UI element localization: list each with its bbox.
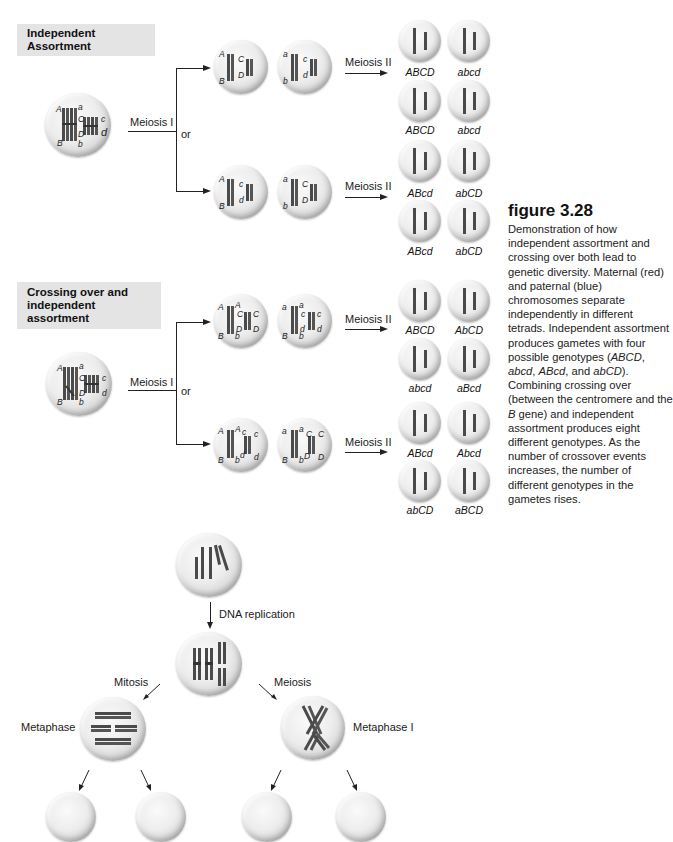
- allele-label: D: [78, 130, 84, 139]
- tetrads-icon: [281, 696, 345, 760]
- bracket-line: [176, 68, 177, 192]
- gamete-cell: [448, 402, 490, 444]
- gamete-genotype: abCD: [395, 504, 445, 516]
- gamete-genotype: ABcd: [395, 245, 445, 257]
- parent-cell-crossing: A B a b C c D d: [46, 352, 112, 416]
- allele-label: c: [301, 310, 305, 319]
- chromosome-icon: [399, 280, 441, 322]
- allele-label: B: [219, 202, 225, 211]
- chromosome-icon: [448, 200, 490, 242]
- arrow-line: [345, 197, 381, 198]
- daughter-cell-partial: [46, 792, 96, 842]
- allele-label: d: [240, 451, 245, 460]
- step-label-meiosis-1: Meiosis I: [130, 116, 173, 128]
- chromosomes-icon: [176, 533, 242, 597]
- allele-label: d: [317, 325, 322, 334]
- section-title: Independent Assortment: [27, 27, 95, 52]
- arrow-right-icon: [203, 319, 211, 325]
- allele-label: c: [303, 55, 307, 64]
- section-title-line: Crossing over and: [27, 286, 155, 299]
- daughter-cell: A B C D: [214, 40, 268, 94]
- gamete-cell: [448, 338, 490, 380]
- gamete-cell: [448, 460, 490, 502]
- allele-label: b: [78, 140, 83, 149]
- gamete-genotype: AbCD: [444, 324, 494, 336]
- gamete-cell: [399, 80, 441, 122]
- branch-line: [176, 191, 204, 192]
- allele-label: C: [253, 310, 259, 319]
- metaphase-cell: [80, 697, 146, 761]
- arrow-right-icon: [380, 449, 388, 455]
- metaphase-label: Metaphase: [21, 721, 75, 733]
- allele-label: B: [57, 139, 63, 148]
- chromosome-icon: [399, 20, 441, 62]
- parent-cell-independent: A B a b C c D d: [45, 93, 111, 157]
- allele-label: C: [78, 115, 84, 124]
- allele-label: D: [253, 325, 259, 334]
- gamete-genotype: abcd: [444, 124, 494, 136]
- section-title-line: independent assortment: [27, 299, 155, 325]
- allele-label: d: [303, 71, 308, 80]
- allele-label: C: [318, 430, 324, 439]
- daughter-cell: A B c d: [214, 165, 268, 219]
- gamete-cell: [399, 140, 441, 182]
- gamete-cell: [448, 280, 490, 322]
- allele-label: d: [254, 453, 259, 462]
- arrow-down-left-icon: [268, 768, 284, 792]
- allele-label: a: [79, 362, 84, 371]
- allele-label: c: [254, 430, 258, 439]
- allele-label: a: [282, 303, 287, 312]
- allele-label: D: [302, 196, 308, 205]
- step-label-meiosis-2: Meiosis II: [345, 436, 391, 448]
- allele-label: B: [57, 398, 63, 407]
- allele-label: c: [317, 310, 321, 319]
- gamete-genotype: ABCD: [395, 124, 445, 136]
- sister-chromatids-icon: [176, 632, 242, 696]
- gamete-cell: [448, 80, 490, 122]
- allele-label: C: [238, 55, 244, 64]
- allele-label: a: [78, 103, 83, 112]
- allele-label: d: [102, 389, 107, 398]
- chromosome-icon: [399, 200, 441, 242]
- arrow-down-right-icon: [256, 682, 280, 702]
- branch-line: [176, 68, 204, 69]
- step-label-meiosis-2: Meiosis II: [345, 313, 391, 325]
- gamete-genotype: ABcd: [395, 447, 445, 459]
- daughter-cell: a b c d: [278, 40, 332, 94]
- chromosome-icon: [448, 140, 490, 182]
- allele-label: a: [282, 427, 287, 436]
- arrow-right-icon: [380, 326, 388, 332]
- gamete-cell: [399, 402, 441, 444]
- allele-label: D: [79, 389, 85, 398]
- gamete-genotype: ABCD: [395, 324, 445, 336]
- chromosome-icon: [399, 460, 441, 502]
- bracket-line: [176, 322, 177, 444]
- allele-label: b: [79, 398, 84, 407]
- allele-label: A: [56, 105, 62, 114]
- gamete-genotype: abcd: [395, 382, 445, 394]
- allele-label: A: [235, 425, 241, 434]
- replicated-cell: [176, 632, 242, 696]
- arrow-right-icon: [380, 70, 388, 76]
- metaphase-i-label: Metaphase I: [353, 721, 414, 733]
- allele-label: D: [238, 71, 244, 80]
- or-label: or: [181, 385, 191, 397]
- allele-label: A: [218, 303, 224, 312]
- allele-label: a: [299, 425, 304, 434]
- allele-label: A: [219, 175, 225, 184]
- metaphase-i-cell: [281, 696, 345, 760]
- arrow-down-icon: [207, 622, 213, 629]
- arrow-down-right-icon: [344, 768, 360, 792]
- allele-label: d: [101, 128, 107, 137]
- daughter-cell-partial: [136, 792, 186, 842]
- daughter-cell-partial: [242, 792, 292, 842]
- gamete-cell: [448, 140, 490, 182]
- allele-label: d: [239, 196, 244, 205]
- allele-label: c: [239, 180, 243, 189]
- allele-label: D: [318, 453, 324, 462]
- allele-label: A: [219, 50, 225, 59]
- gamete-cell: [399, 280, 441, 322]
- arrow-down-right-icon: [138, 768, 154, 792]
- gamete-genotype: ABCD: [395, 66, 445, 78]
- connector-line: [128, 131, 176, 132]
